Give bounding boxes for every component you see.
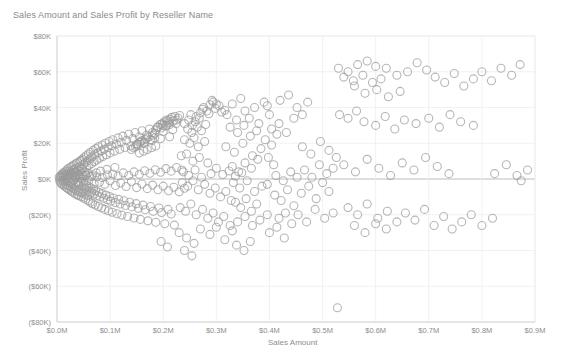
data-point [256,216,264,224]
data-point [211,184,219,192]
data-point [440,213,448,221]
data-point [325,146,333,154]
data-point [353,107,361,115]
x-tick-label: $0.2M [153,326,174,335]
scatter-chart: Sales Amount and Sales Profit by Reselle… [0,0,564,363]
data-point [329,209,337,217]
data-point [363,200,371,208]
data-point [301,166,309,174]
data-point [202,120,210,128]
data-point [251,188,259,196]
data-point [241,107,249,115]
data-point [441,78,449,86]
data-point [222,143,230,151]
data-point [275,120,283,128]
data-point [508,71,516,79]
data-point [303,218,311,226]
data-point [226,221,234,229]
data-point [234,129,242,137]
data-point [445,170,453,178]
data-point [237,204,245,212]
data-point [398,159,406,167]
data-point [431,73,439,81]
data-point [517,177,525,185]
data-point [298,111,306,119]
data-point [233,116,241,124]
data-point [435,123,443,131]
data-point [393,71,401,79]
data-point [257,145,265,153]
data-point [384,93,392,101]
data-point [290,202,298,210]
data-point [446,111,454,119]
data-point [253,200,261,208]
data-point [248,221,256,229]
data-point [279,177,287,185]
data-point [312,195,320,203]
data-point [241,213,249,221]
plot-svg: $80K$60K$40K$20K$0K($20K)($40K)($60K)($8… [0,0,564,363]
data-point [351,168,359,176]
data-point [321,214,329,222]
data-point [344,204,352,212]
data-point [516,61,524,69]
data-point [502,161,510,169]
data-point [285,91,293,99]
data-point [113,210,121,218]
data-point [191,166,199,174]
y-tick-label: $40K [33,104,51,113]
data-point [334,64,342,72]
x-tick-label: $0.4M [259,326,280,335]
data-point [201,137,209,145]
x-tick-label: $0.0M [47,326,68,335]
data-point [228,227,236,235]
x-tick-label: $0.3M [206,326,227,335]
data-point [220,213,228,221]
data-point [240,121,248,129]
data-point [377,75,385,83]
data-point [152,218,160,226]
data-point [190,134,198,142]
y-tick-label: $0K [38,175,51,184]
data-points [55,57,531,312]
data-point [387,171,395,179]
data-point [349,77,357,85]
data-point [421,205,429,213]
data-point [325,188,333,196]
y-tick-label: ($60K) [28,282,51,291]
data-point [411,216,419,224]
data-point [243,177,251,185]
data-point [340,73,348,81]
data-point [230,148,238,156]
data-point [277,196,285,204]
data-point [350,82,358,90]
data-point [497,64,505,72]
data-point [316,137,324,145]
data-point [412,120,420,128]
data-point [268,141,276,149]
y-tick-label: ($20K) [28,211,51,220]
data-point [196,225,204,233]
data-point [293,173,301,181]
data-point [170,221,178,229]
x-tick-label: $0.9M [525,326,546,335]
data-point [344,114,352,122]
data-point [144,217,152,225]
y-tick-label: $60K [33,68,51,77]
x-tick-label: $0.5M [312,326,333,335]
data-point [360,118,368,126]
data-point [204,159,212,167]
data-point [273,223,281,231]
data-point [430,221,438,229]
data-point [199,205,207,213]
data-point [280,234,288,242]
data-point [298,143,306,151]
tick-labels: $80K$60K$40K$20K$0K($20K)($40K)($60K)($8… [28,32,545,335]
data-point [350,221,358,229]
data-point [448,225,456,233]
data-point [258,182,266,190]
data-point [410,166,418,174]
x-axis-title: Sales Amount [268,338,317,347]
data-point [288,220,296,228]
data-point [413,59,421,67]
